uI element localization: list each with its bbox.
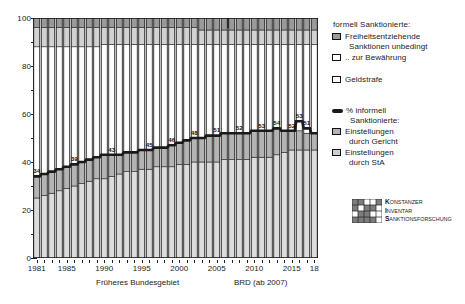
svg-text:39: 39 (71, 155, 78, 162)
x-tick-label: 2010 (245, 264, 263, 273)
kis-line-3: SANKTIONSFORSCHUNG (385, 215, 452, 224)
legend-item-einstellungen-sta[interactable]: Einstellungen durch StA (332, 148, 465, 167)
legend-label-einstellungen-sta: Einstellungen durch StA (345, 148, 394, 167)
x-tick-label: 1990 (95, 264, 113, 273)
x-minor-tick (299, 260, 300, 263)
legend-swatch-freiheitsentziehend (332, 33, 341, 40)
legend-label-einstellungen-gericht: Einstellungen durch Gericht (345, 127, 398, 146)
svg-text:34: 34 (33, 167, 40, 174)
kis-logo-text: KONSTANZER INVENTAR SANKTIONSFORSCHUNG (385, 198, 452, 224)
x-minor-tick (187, 260, 188, 263)
kis-logo: KONSTANZER INVENTAR SANKTIONSFORSCHUNG (352, 198, 452, 224)
legend-item-bewaehrung[interactable]: .. zur Bewährung (332, 53, 465, 63)
legend-swatch-einstellungen-sta (332, 149, 341, 156)
svg-text:51: 51 (213, 126, 220, 133)
x-minor-tick (247, 260, 248, 263)
x-tick-label: 1985 (58, 264, 76, 273)
legend-item-einstellungen-gericht[interactable]: Einstellungen durch Gericht (332, 127, 465, 146)
legend-item-freiheitsentziehend[interactable]: Freiheitsentziehende Sanktionen unbeding… (332, 32, 465, 51)
kis-line-2: INVENTAR (385, 207, 452, 216)
region-label-left: Früheres Bundesgebiet (96, 278, 179, 287)
x-minor-tick (142, 260, 143, 263)
x-minor-tick (134, 260, 135, 263)
legend-label-freiheitsentziehend: Freiheitsentziehende Sanktionen unbeding… (345, 32, 427, 51)
x-minor-tick (254, 260, 255, 263)
x-tick-label: 1995 (133, 264, 151, 273)
legend-spacer-2 (332, 86, 465, 96)
x-minor-tick (37, 260, 38, 263)
x-minor-tick (277, 260, 278, 263)
x-minor-tick (284, 260, 285, 263)
legend-item-geldstrafe[interactable]: Geldstrafe (332, 75, 465, 85)
x-minor-tick (194, 260, 195, 263)
svg-text:52: 52 (236, 124, 243, 131)
svg-text:48: 48 (191, 129, 198, 136)
region-captions: Früheres Bundesgebiet BRD (ab 2007) (33, 278, 333, 292)
x-minor-tick (217, 260, 218, 263)
y-tick-label: 100 (17, 14, 31, 23)
x-minor-tick (307, 260, 308, 263)
x-minor-tick (164, 260, 165, 263)
legend-swatch-informell-line (332, 109, 343, 113)
x-tick-label: 2015 (283, 264, 301, 273)
svg-text:52: 52 (288, 122, 295, 129)
x-minor-tick (269, 260, 270, 263)
x-minor-tick (202, 260, 203, 263)
svg-text:46: 46 (168, 136, 175, 143)
legend-swatch-bewaehrung (332, 54, 341, 61)
x-tick-label: 1981 (28, 264, 46, 273)
x-axis: 1981198519901995200020052010201518 (33, 260, 318, 274)
legend-spacer-3 (332, 96, 465, 106)
x-minor-tick (172, 260, 173, 263)
stacked-area-chart: 34394345464851525354525351 (33, 18, 318, 258)
kis-grid-icon (352, 199, 382, 223)
x-minor-tick (149, 260, 150, 263)
svg-text:43: 43 (108, 146, 115, 153)
x-minor-tick (44, 260, 45, 263)
x-minor-tick (224, 260, 225, 263)
x-minor-tick (52, 260, 53, 263)
x-minor-tick (112, 260, 113, 263)
x-tick-label: 2005 (208, 264, 226, 273)
legend-swatch-einstellungen-gericht (332, 128, 341, 135)
legend-label-informell: % informell Sanktionierte: (346, 106, 400, 125)
kis-line-1: KONSTANZER (385, 198, 452, 207)
svg-text:53: 53 (296, 112, 303, 119)
legend-label-geldstrafe: Geldstrafe (345, 75, 382, 85)
svg-text:45: 45 (146, 141, 153, 148)
x-minor-tick (82, 260, 83, 263)
legend-title-formal: formell Sanktionierte: (333, 20, 465, 29)
y-tick-label: 20 (22, 206, 31, 215)
x-tick-label: 18 (310, 264, 319, 273)
x-minor-tick (239, 260, 240, 263)
x-minor-tick (262, 260, 263, 263)
x-minor-tick (127, 260, 128, 263)
svg-text:51: 51 (303, 119, 310, 126)
x-minor-tick (232, 260, 233, 263)
x-minor-tick (89, 260, 90, 263)
x-minor-tick (104, 260, 105, 263)
plot-area: 34394345464851525354525351 (33, 18, 318, 258)
y-tick-label: 60 (22, 110, 31, 119)
legend-spacer (332, 65, 465, 75)
y-tick-label: 80 (22, 62, 31, 71)
x-minor-tick (59, 260, 60, 263)
y-tick-mark (31, 258, 37, 259)
x-minor-tick (209, 260, 210, 263)
x-minor-tick (157, 260, 158, 263)
x-minor-tick (119, 260, 120, 263)
legend-label-bewaehrung: .. zur Bewährung (345, 53, 406, 63)
x-tick-label: 2000 (170, 264, 188, 273)
legend-item-informell[interactable]: % informell Sanktionierte: (332, 106, 465, 125)
x-minor-tick (179, 260, 180, 263)
legend-swatch-geldstrafe (332, 76, 341, 83)
x-minor-tick (97, 260, 98, 263)
svg-text:53: 53 (258, 122, 265, 129)
chart-page: 020406080100 34394345464851525354525351 … (0, 0, 465, 304)
x-minor-tick (67, 260, 68, 263)
y-tick-label: 40 (22, 158, 31, 167)
y-axis: 020406080100 (0, 18, 31, 258)
x-minor-tick (74, 260, 75, 263)
region-label-right: BRD (ab 2007) (234, 278, 287, 287)
x-minor-tick (314, 260, 315, 263)
